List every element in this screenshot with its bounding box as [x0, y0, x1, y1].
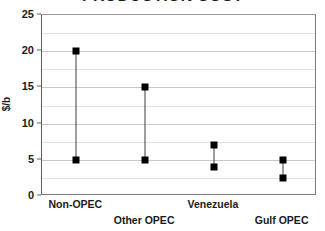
production-cost-chart: PRODUCTION COST 2520151050 $/b Non-OPECO… [0, 0, 325, 231]
y-tick-label-10: 10 [22, 117, 34, 129]
data-point-gulf-opec-high [279, 156, 286, 163]
x-tick-label-gulf-opec: Gulf OPEC [255, 214, 309, 226]
data-point-other-opec-high [142, 84, 149, 91]
gridline-17-5 [42, 69, 315, 70]
data-point-venezuela-low [210, 164, 217, 171]
y-tick-label-25: 25 [22, 8, 34, 20]
data-point-venezuela-high [210, 142, 217, 149]
data-point-non-opec-high [73, 48, 80, 55]
x-tick-label-other-opec: Other OPEC [114, 214, 175, 226]
range-line-non-opec [76, 51, 77, 160]
range-line-other-opec [145, 87, 146, 159]
data-point-non-opec-low [73, 156, 80, 163]
chart-title: PRODUCTION COST [0, 0, 325, 5]
gridline-15 [42, 87, 315, 88]
gridline-22-5 [42, 33, 315, 34]
gridline-2-5 [42, 178, 315, 179]
gridline-5 [42, 160, 315, 161]
y-tick-label-20: 20 [22, 44, 34, 56]
y-tick-label-15: 15 [22, 80, 34, 92]
gridline-12-5 [42, 106, 315, 107]
gridline-20 [42, 51, 315, 52]
x-tick-label-non-opec: Non-OPEC [49, 198, 103, 210]
x-tick-label-venezuela: Venezuela [187, 198, 238, 210]
y-tick-label-0: 0 [28, 189, 34, 201]
data-point-gulf-opec-low [279, 174, 286, 181]
plot-area [41, 14, 316, 195]
gridline-10 [42, 124, 315, 125]
y-axis: 2520151050 [0, 0, 41, 231]
y-tick-label-5: 5 [28, 153, 34, 165]
y-axis-title: $/b [1, 97, 12, 111]
data-point-other-opec-low [142, 156, 149, 163]
gridline-7-5 [42, 142, 315, 143]
